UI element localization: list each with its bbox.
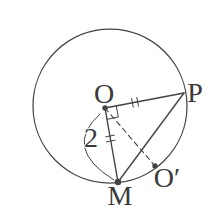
figure-canvas: O P M O′ 2 [0, 0, 205, 208]
point-label-p: P [187, 77, 203, 108]
radius-value-label: 2 [84, 122, 98, 153]
geometry-figure: O P M O′ 2 [0, 0, 205, 208]
segment-OP [105, 93, 184, 108]
point-label-o: O [94, 78, 114, 109]
point-label-o-prime: O′ [154, 162, 180, 193]
point-label-m: M [108, 180, 133, 208]
segment-OO-prime [105, 108, 155, 166]
